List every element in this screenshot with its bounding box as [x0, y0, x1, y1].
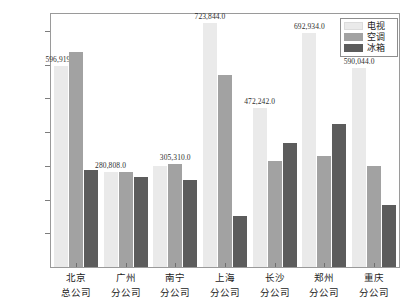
bar[interactable]	[332, 124, 346, 267]
bar-group: 280,808.0	[101, 14, 151, 267]
x-axis-category-line: 总公司	[51, 285, 101, 300]
bar[interactable]	[119, 172, 133, 267]
bar-group: 305,310.0	[150, 14, 200, 267]
bar[interactable]	[134, 177, 148, 267]
x-axis-category-label: 重庆分公司	[349, 270, 399, 300]
x-axis-tick-mark	[374, 263, 375, 267]
x-axis-category-line: 分公司	[250, 285, 300, 300]
x-axis-category-label: 上海分公司	[200, 270, 250, 300]
bar[interactable]	[268, 161, 282, 267]
x-axis-tick-mark	[76, 263, 77, 267]
x-axis-category-label: 郑州分公司	[300, 270, 350, 300]
bar-data-label: 723,844.0	[195, 13, 226, 21]
x-axis-category-label: 长沙分公司	[250, 270, 300, 300]
bar[interactable]	[218, 75, 232, 267]
x-axis-category-line: 分公司	[300, 285, 350, 300]
bar[interactable]	[54, 66, 68, 267]
x-axis-tick-mark	[175, 263, 176, 267]
bar[interactable]	[352, 68, 366, 267]
y-axis: 0100 000200 000300 000400 000500 000600 …	[0, 0, 50, 306]
bar[interactable]	[302, 33, 316, 267]
x-axis-category-line: 分公司	[349, 285, 399, 300]
bar[interactable]	[233, 216, 247, 267]
legend: 电视空调冰箱	[340, 18, 398, 57]
bar[interactable]	[317, 156, 331, 267]
bar-data-label: 692,934.0	[294, 23, 325, 31]
x-axis-category-label: 广州分公司	[101, 270, 151, 300]
bar-data-label: 305,310.0	[160, 154, 191, 162]
bar[interactable]	[283, 143, 297, 267]
x-axis-category-line: 长沙	[250, 270, 300, 285]
x-axis-category-line: 广州	[101, 270, 151, 285]
legend-swatch-icon	[344, 44, 363, 52]
legend-item[interactable]: 空调	[344, 32, 394, 42]
bar-chart: 0100 000200 000300 000400 000500 000600 …	[0, 0, 411, 306]
bar-data-label: 590,044.0	[344, 58, 375, 66]
legend-item-label: 空调	[367, 32, 385, 42]
bar-group: 596,919.0	[51, 14, 101, 267]
bar[interactable]	[153, 166, 167, 267]
x-axis-category-line: 郑州	[300, 270, 350, 285]
x-axis-tick-mark	[225, 263, 226, 267]
x-axis-category-line: 北京	[51, 270, 101, 285]
bar-data-label: 280,808.0	[95, 162, 126, 170]
x-axis-tick-mark	[324, 263, 325, 267]
bar[interactable]	[253, 108, 267, 267]
x-axis-category-line: 分公司	[101, 285, 151, 300]
legend-item-label: 冰箱	[367, 43, 385, 53]
legend-item[interactable]: 冰箱	[344, 43, 394, 53]
bar-group: 472,242.0	[250, 14, 300, 267]
legend-item[interactable]: 电视	[344, 21, 394, 31]
bar[interactable]	[84, 170, 98, 267]
x-axis-category-line: 重庆	[349, 270, 399, 285]
x-axis-category-line: 上海	[200, 270, 250, 285]
legend-swatch-icon	[344, 33, 363, 41]
bar[interactable]	[367, 166, 381, 267]
bar-group: 723,844.0	[200, 14, 250, 267]
bar[interactable]	[382, 205, 396, 267]
x-axis-tick-mark	[275, 263, 276, 267]
x-axis-category-label: 南宁分公司	[150, 270, 200, 300]
bar[interactable]	[69, 52, 83, 267]
x-axis-labels: 北京总公司广州分公司南宁分公司上海分公司长沙分公司郑州分公司重庆分公司	[51, 270, 399, 306]
x-axis-category-line: 分公司	[200, 285, 250, 300]
x-axis-tick-mark	[126, 263, 127, 267]
bar[interactable]	[104, 172, 118, 267]
bar[interactable]	[183, 180, 197, 267]
legend-swatch-icon	[344, 22, 363, 30]
bar[interactable]	[168, 164, 182, 267]
legend-item-label: 电视	[367, 21, 385, 31]
x-axis-category-line: 南宁	[150, 270, 200, 285]
bar-data-label: 472,242.0	[244, 98, 275, 106]
bar[interactable]	[203, 23, 217, 267]
x-axis-category-line: 分公司	[150, 285, 200, 300]
x-axis-category-label: 北京总公司	[51, 270, 101, 300]
